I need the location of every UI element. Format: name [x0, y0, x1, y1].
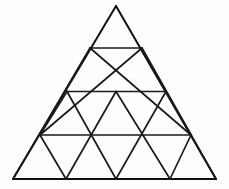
- right-parallel-line-6: [166, 92, 191, 136]
- left-parallel-line-2: [40, 92, 67, 136]
- left-parallel-lines-group: [13, 48, 191, 179]
- left-parallel-line-6: [170, 135, 191, 179]
- triangle-diagram: Subdivided equilateral triangle: [0, 0, 229, 189]
- triangle-svg-canvas: [0, 0, 229, 189]
- right-parallel-line-5: [40, 135, 66, 179]
